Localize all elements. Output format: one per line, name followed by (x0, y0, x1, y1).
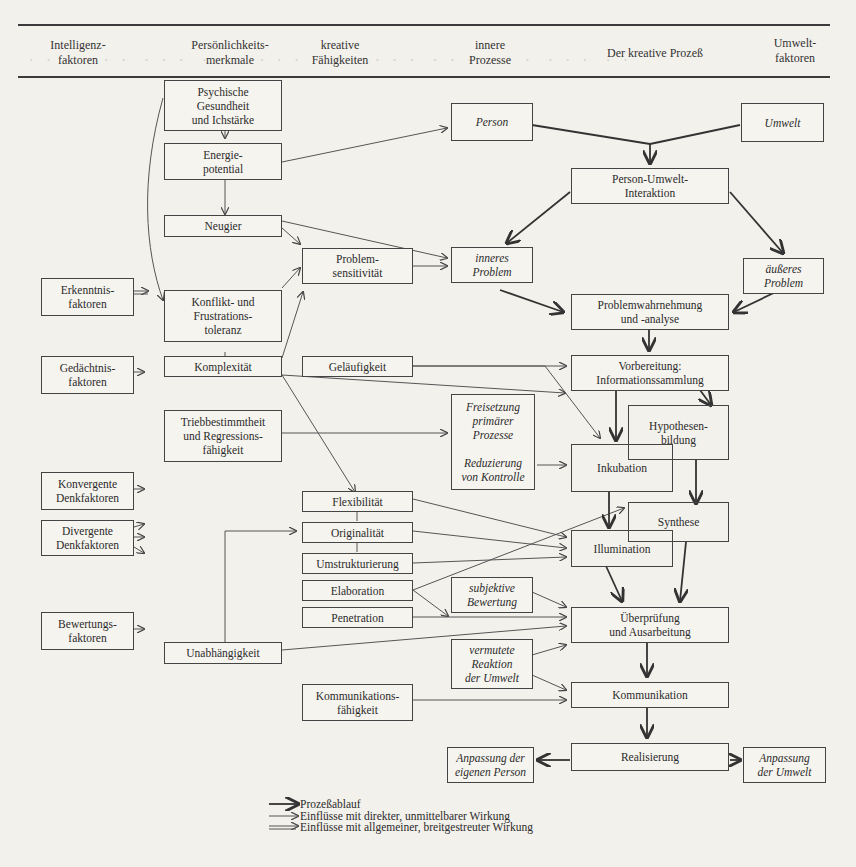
box-flexibilitaet: Flexibilität (302, 491, 413, 512)
box-penetration: Penetration (302, 607, 413, 628)
box-umwelt: Umwelt (741, 103, 824, 142)
box-energiepotential: Energie- potential (164, 143, 282, 180)
box-kommunikation: Kommunikation (571, 682, 729, 708)
box-gelaeufigkeit: Geläufigkeit (302, 356, 413, 377)
box-vorbereitung: Vorbereitung: Informationssammlung (571, 355, 729, 391)
box-anpassung-umwelt: Anpassung der Umwelt (743, 747, 826, 783)
box-person: Person (451, 103, 533, 141)
box-person-umwelt-interaktion: Person-Umwelt- Interaktion (571, 168, 729, 204)
box-illumination: Illumination (571, 530, 673, 567)
box-kommunikationsfaehigkeit: Kommunikations- fähigkeit (302, 684, 413, 721)
box-aeusseres-problem: äußeres Problem (743, 258, 824, 294)
box-konflikt-frustrationstoleranz: Konflikt- und Frustrations- toleranz (164, 290, 282, 342)
box-bewertungsfaktoren: Bewertungs- faktoren (41, 612, 134, 650)
box-gedaechtnisfaktoren: Gedächtnis- faktoren (41, 356, 134, 394)
legend-general-influence: Einflüsse mit allgemeiner, breitgestreut… (300, 821, 533, 834)
box-problemsensitivitaet: Problem- sensitivität (302, 248, 413, 284)
box-umstrukturierung: Umstrukturierung (302, 553, 413, 574)
box-unabhaengigkeit: Unabhängigkeit (164, 642, 282, 664)
box-subjektive-bewertung: subjektive Bewertung (451, 577, 533, 613)
box-triebbestimmtheit: Triebbestimmtheit und Regressions- fähig… (164, 410, 282, 462)
box-komplexitaet: Komplexität (164, 356, 282, 377)
box-neugier: Neugier (164, 215, 282, 237)
box-vermutete-reaktion: vermutete Reaktion der Umwelt (451, 639, 533, 689)
box-problemwahrnehmung: Problemwahrnehmung und -analyse (571, 294, 729, 330)
box-divergente-denkfaktoren: Divergente Denkfaktoren (41, 520, 134, 556)
box-erkenntnisfaktoren: Erkenntnis- faktoren (41, 278, 134, 316)
box-freisetzung-reduzierung: Freisetzung primärer Prozesse Reduzierun… (451, 394, 535, 490)
box-realisierung: Realisierung (571, 743, 729, 771)
box-elaboration: Elaboration (302, 580, 413, 601)
box-ueberpruefung: Überprüfung und Ausarbeitung (571, 607, 729, 643)
box-inkubation: Inkubation (571, 444, 673, 492)
box-inneres-problem: inneres Problem (451, 247, 533, 283)
box-psychische-gesundheit: Psychische Gesundheit und Ichstärke (164, 80, 282, 131)
box-konvergente-denkfaktoren: Konvergente Denkfaktoren (41, 472, 134, 510)
box-anpassung-eigene-person: Anpassung der eigenen Person (447, 747, 534, 783)
box-originalitaet: Originalität (302, 522, 413, 543)
